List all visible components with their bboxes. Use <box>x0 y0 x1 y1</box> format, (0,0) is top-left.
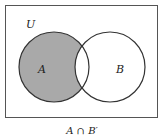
caption: A ∩ B′ <box>65 125 98 136</box>
set-a-label: A <box>37 63 46 76</box>
universe-label: U <box>26 18 36 31</box>
venn-diagram: U A B A ∩ B′ <box>0 0 164 139</box>
set-b-label: B <box>115 63 124 76</box>
